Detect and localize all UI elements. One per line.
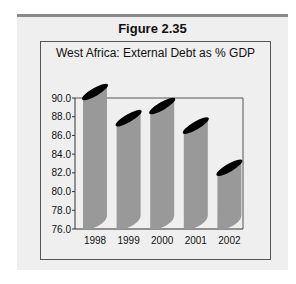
x-tick-label: 2000 <box>151 235 174 246</box>
y-tick-label: 80.0 <box>52 186 72 197</box>
bar-chart: 76.078.080.082.084.086.088.090.019981999… <box>0 0 296 284</box>
y-tick-label: 78.0 <box>52 205 72 216</box>
y-tick-label: 86.0 <box>52 130 72 141</box>
y-tick-label: 84.0 <box>52 149 72 160</box>
y-tick-label: 90.0 <box>52 93 72 104</box>
bar-1998 <box>83 85 107 229</box>
y-tick-label: 76.0 <box>52 224 72 235</box>
bar-2000 <box>150 99 174 229</box>
x-tick-label: 2002 <box>218 235 241 246</box>
bar-2001 <box>184 119 208 229</box>
x-tick-label: 1999 <box>117 235 140 246</box>
y-tick-label: 82.0 <box>52 167 72 178</box>
bar-1999 <box>117 111 141 229</box>
y-tick-label: 88.0 <box>52 111 72 122</box>
x-tick-label: 1998 <box>84 235 107 246</box>
x-tick-label: 2001 <box>185 235 208 246</box>
